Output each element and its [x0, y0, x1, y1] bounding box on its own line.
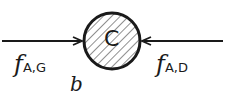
panel-label: b — [70, 72, 83, 96]
left-force-label: fA,G — [14, 50, 46, 78]
center-label: C — [104, 26, 119, 51]
right-force-label: fA,D — [156, 50, 188, 78]
left-arrow — [2, 37, 82, 45]
right-arrow — [142, 37, 223, 45]
